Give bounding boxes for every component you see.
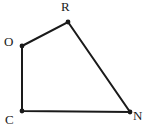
- vertex-label-c: C: [5, 113, 14, 126]
- quadrilateral-diagram: [0, 0, 148, 135]
- quadrilateral-outline-ORNC: [22, 22, 130, 112]
- vertex-label-r: R: [61, 0, 70, 13]
- vertex-dot-r: [66, 20, 71, 25]
- vertex-dot-o: [20, 44, 25, 49]
- vertex-dot-n: [128, 110, 133, 115]
- vertex-label-n: N: [133, 109, 142, 122]
- vertex-label-o: O: [4, 35, 13, 48]
- vertex-dot-c: [20, 109, 25, 114]
- geometry-figure-canvas: O R N C: [0, 0, 148, 135]
